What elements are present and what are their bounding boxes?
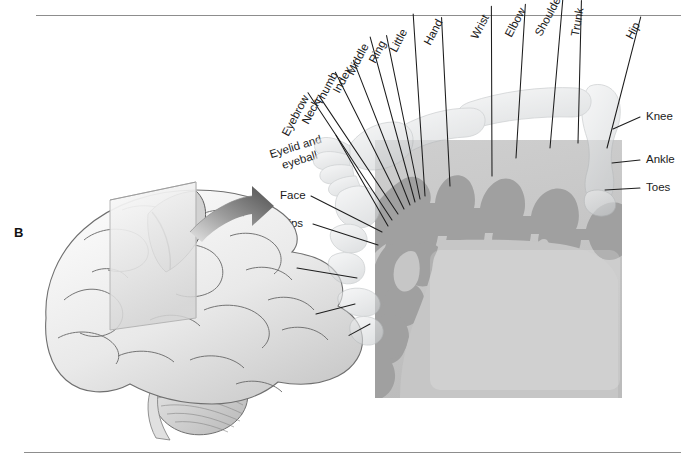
- leader-shoulder: [550, 0, 564, 148]
- leader-index: [353, 60, 410, 205]
- leader-hand: [442, 18, 450, 186]
- leader-hip: [607, 17, 641, 148]
- leader-wrist: [491, 6, 492, 176]
- leader-neck: [320, 97, 398, 214]
- figure-panel-b: B: [0, 0, 693, 457]
- leader-knee: [613, 117, 640, 129]
- leader-little: [413, 14, 425, 196]
- leader-ankle: [612, 160, 640, 163]
- leader-jaw: [297, 268, 357, 278]
- leader-toes: [605, 188, 640, 190]
- leader-lips: [313, 224, 378, 245]
- leader-swallowing: [349, 324, 370, 335]
- leader-lines-group: [0, 0, 693, 457]
- leader-thumb: [335, 72, 404, 209]
- leader-tongue: [316, 304, 355, 314]
- leader-trunk: [578, 1, 581, 143]
- leader-elbow: [516, 4, 525, 158]
